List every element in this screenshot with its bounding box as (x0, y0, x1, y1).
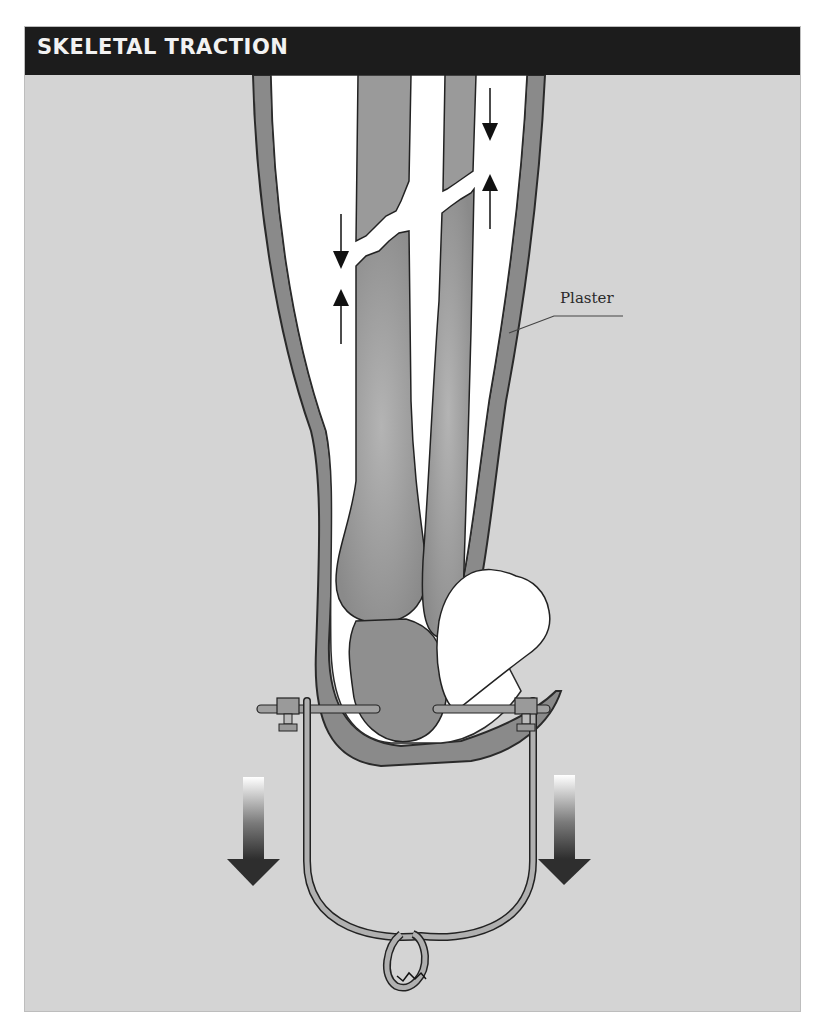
title-bar: SKELETAL TRACTION (25, 27, 800, 75)
traction-arrow-right-icon (538, 775, 591, 885)
plaster-leader-line (509, 316, 623, 333)
traction-arrow-left-icon (227, 777, 280, 886)
page-title: SKELETAL TRACTION (37, 35, 288, 59)
plaster-label: Plaster (560, 289, 614, 307)
left-clamp (277, 698, 299, 731)
illustration-panel: SKELETAL TRACTION Plaster (24, 26, 801, 1012)
right-clamp (515, 698, 537, 731)
skeletal-traction-illustration (25, 27, 801, 1012)
